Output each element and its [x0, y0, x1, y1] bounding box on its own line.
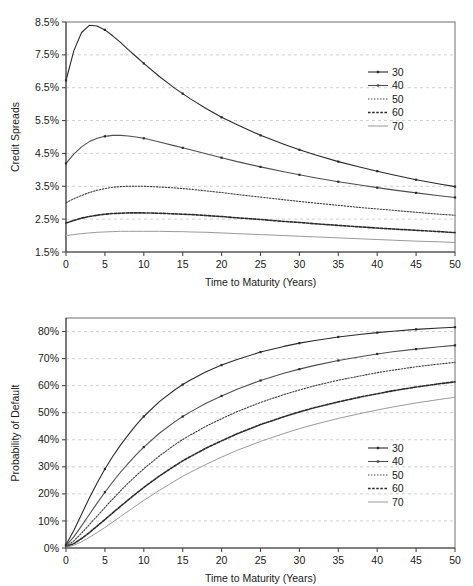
y-axis-title: Credit Spreads	[9, 102, 21, 172]
y-tick-label: 20%	[38, 487, 59, 499]
data-point-marker	[143, 62, 145, 64]
legend-item-60[interactable]: 60	[368, 106, 404, 118]
legend-item-30[interactable]: 30	[368, 66, 404, 78]
legend-marker-30	[377, 71, 379, 73]
data-point-marker	[415, 348, 417, 350]
x-tick-label: 25	[255, 554, 267, 566]
data-point-marker	[337, 359, 339, 361]
series-group	[65, 25, 456, 242]
legend-marker-30	[377, 447, 379, 449]
legend-label-60: 60	[392, 482, 404, 494]
x-tick-label: 5	[102, 554, 108, 566]
x-axis: 05101520253035404550	[63, 548, 461, 566]
x-tick-label: 35	[332, 258, 344, 270]
series-line-60	[66, 213, 455, 233]
y-tick-label: 40%	[38, 433, 59, 445]
data-point-marker	[454, 186, 456, 188]
legend-label-30: 30	[392, 66, 404, 78]
x-tick-label: 40	[371, 554, 383, 566]
data-point-marker	[415, 192, 417, 194]
y-tick-label: 0%	[44, 542, 59, 554]
data-point-marker	[298, 368, 300, 370]
data-point-marker	[337, 181, 339, 183]
y-tick-label: 2.5%	[35, 213, 59, 225]
legend-item-60[interactable]: 60	[368, 482, 404, 494]
data-point-marker	[454, 344, 456, 346]
y-tick-label: 7.5%	[35, 48, 59, 60]
legend: 3040506070	[368, 442, 404, 508]
x-axis-title: Time to Maturity (Years)	[205, 572, 316, 584]
x-tick-label: 30	[294, 258, 306, 270]
series-line-30	[66, 327, 455, 545]
y-tick-label: 3.5%	[35, 180, 59, 192]
data-point-marker	[415, 328, 417, 330]
y-tick-label: 30%	[38, 460, 59, 472]
data-point-marker	[259, 166, 261, 168]
data-point-marker	[182, 93, 184, 95]
x-tick-label: 15	[177, 258, 189, 270]
legend-label-70: 70	[392, 120, 404, 132]
figure-container: 1.5%2.5%3.5%4.5%5.5%6.5%7.5%8.5%05101520…	[0, 0, 473, 586]
data-point-marker	[104, 491, 106, 493]
legend-label-30: 30	[392, 442, 404, 454]
data-point-marker	[65, 162, 67, 164]
y-tick-label: 5.5%	[35, 114, 59, 126]
y-tick-label: 80%	[38, 325, 59, 337]
y-axis: 1.5%2.5%3.5%4.5%5.5%6.5%7.5%8.5%	[35, 16, 66, 258]
legend-label-50: 50	[392, 93, 404, 105]
data-point-marker	[298, 174, 300, 176]
data-point-marker	[415, 179, 417, 181]
x-tick-label: 35	[332, 554, 344, 566]
chart-panel-probability-of-default: 0%10%20%30%40%50%60%70%80%05101520253035…	[0, 296, 473, 586]
y-tick-label: 6.5%	[35, 81, 59, 93]
series-markers-30	[65, 326, 456, 546]
y-tick-label: 10%	[38, 515, 59, 527]
legend-item-40[interactable]: 40	[368, 455, 404, 467]
chart-panel-credit-spreads: 1.5%2.5%3.5%4.5%5.5%6.5%7.5%8.5%05101520…	[0, 0, 473, 290]
x-tick-label: 15	[177, 554, 189, 566]
data-point-marker	[376, 332, 378, 334]
data-point-marker	[182, 147, 184, 149]
legend-label-40: 40	[392, 455, 404, 467]
legend-marker-40	[377, 84, 379, 86]
data-point-marker	[454, 326, 456, 328]
data-point-marker	[221, 364, 223, 366]
data-point-marker	[221, 157, 223, 159]
legend-item-30[interactable]: 30	[368, 442, 404, 454]
data-point-marker	[298, 342, 300, 344]
x-tick-label: 30	[294, 554, 306, 566]
legend-item-50[interactable]: 50	[368, 93, 404, 105]
data-point-marker	[65, 79, 67, 81]
y-axis: 0%10%20%30%40%50%60%70%80%	[38, 318, 66, 554]
data-point-marker	[259, 351, 261, 353]
data-point-marker	[143, 137, 145, 139]
legend-item-70[interactable]: 70	[368, 496, 404, 508]
legend: 3040506070	[368, 66, 404, 132]
data-point-marker	[143, 415, 145, 417]
x-tick-label: 45	[410, 258, 422, 270]
legend-marker-40	[377, 460, 379, 462]
legend-item-70[interactable]: 70	[368, 120, 404, 132]
x-tick-label: 20	[216, 258, 228, 270]
x-tick-label: 0	[63, 554, 69, 566]
legend-label-40: 40	[392, 79, 404, 91]
series-group	[65, 326, 456, 547]
data-point-marker	[221, 116, 223, 118]
legend-item-50[interactable]: 50	[368, 469, 404, 481]
data-point-marker	[104, 468, 106, 470]
data-point-marker	[337, 336, 339, 338]
legend-label-60: 60	[392, 106, 404, 118]
data-point-marker	[376, 170, 378, 172]
x-tick-label: 20	[216, 554, 228, 566]
legend-item-40[interactable]: 40	[368, 79, 404, 91]
x-tick-label: 10	[138, 258, 150, 270]
y-tick-label: 60%	[38, 379, 59, 391]
data-point-marker	[104, 29, 106, 31]
series-line-70	[66, 231, 455, 242]
series-markers-40	[65, 135, 456, 198]
legend-label-70: 70	[392, 496, 404, 508]
data-point-marker	[376, 353, 378, 355]
data-point-marker	[454, 196, 456, 198]
data-point-marker	[376, 187, 378, 189]
x-tick-label: 5	[102, 258, 108, 270]
